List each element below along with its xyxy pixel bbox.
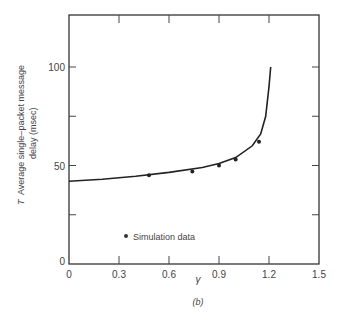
svg-text:delay (msec): delay (msec) [28,107,38,159]
chart: 00.30.60.91.21.5050100 Simulation data γ… [0,0,342,320]
svg-text:1.5: 1.5 [312,269,326,280]
svg-text:T: T [16,198,26,205]
legend: Simulation data [124,232,195,242]
svg-text:0: 0 [66,269,72,280]
svg-text:0.3: 0.3 [112,269,126,280]
svg-text:0: 0 [59,256,65,267]
x-axis-label: γ [196,274,202,285]
svg-text:100: 100 [48,62,65,73]
simulation-points [147,140,261,177]
legend-label: Simulation data [133,232,195,242]
svg-text:1.2: 1.2 [262,269,276,280]
svg-text:0.6: 0.6 [162,269,176,280]
plot-frame [69,15,319,264]
analytical-curve [69,67,271,181]
svg-text:0.9: 0.9 [212,269,226,280]
figure-caption: (b) [193,297,204,307]
legend-marker-icon [124,234,128,238]
svg-text:Average single–packet message: Average single–packet message [16,65,26,195]
y-axis-label: T Average single–packet message delay (m… [16,65,38,205]
svg-text:50: 50 [54,161,66,172]
